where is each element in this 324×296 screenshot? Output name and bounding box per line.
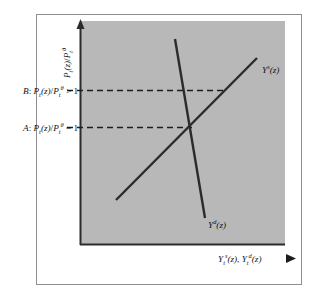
x-axis-arrow-icon [286,254,296,263]
x-axis-label: Yts(z), Ytd(z) [218,252,262,265]
supply-curve-label: Ys(z) [262,63,279,75]
annotation-point-b: B: Pt(z)/Ptθ > 1 [23,84,78,97]
annotation-point-a: A: Pt(z)/Ptθ = 1 [22,121,78,134]
figure-container: Pt(z)/Ptθ Yts(z), Ytd(z) Ys(z) Yd(z) B: … [0,0,324,296]
y-axis-label: Pt(z)/Ptθ [60,48,73,79]
demand-curve-label: Yd(z) [208,218,226,230]
diagram-canvas: Pt(z)/Ptθ Yts(z), Ytd(z) Ys(z) Yd(z) B: … [0,0,324,296]
